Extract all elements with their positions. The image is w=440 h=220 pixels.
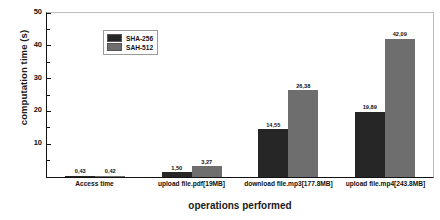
bar-sah512-2[interactable]: 26,38 xyxy=(288,90,318,177)
bar-value-label: 26,38 xyxy=(296,83,310,89)
bar-group-upload-mp4: 19,89 42,09 xyxy=(337,13,434,177)
bar-sha256-2[interactable]: 14,55 xyxy=(258,129,288,177)
legend: SHA-256 SAH-512 xyxy=(103,30,158,55)
bar-value-label: 1,50 xyxy=(171,165,182,171)
bar-sha256-1[interactable]: 1,50 xyxy=(162,172,192,177)
y-tick-label: 40 xyxy=(34,40,42,49)
x-tick-label-2: download file.mp3[177.8MB] xyxy=(240,180,337,187)
y-tick-label: 30 xyxy=(34,73,42,82)
legend-swatch-icon xyxy=(107,34,122,42)
y-tick-label: 10 xyxy=(34,138,42,147)
x-axis-title: operations performed xyxy=(46,200,434,211)
bar-chart: computation time (s) 50 40 30 20 xyxy=(0,0,440,220)
legend-label: SAH-512 xyxy=(126,44,153,51)
bar-value-label: 19,89 xyxy=(363,104,377,110)
legend-label: SHA-256 xyxy=(126,35,153,42)
bar-value-label: 3,27 xyxy=(201,159,212,165)
bar-sha256-0[interactable]: 0,43 xyxy=(65,176,95,177)
bar-sah512-3[interactable]: 42,09 xyxy=(385,39,415,177)
x-tick-label-0: Access time xyxy=(46,180,143,187)
bar-value-label: 42,09 xyxy=(393,31,407,37)
x-tick-label-3: upload file.mp4[243.8MB] xyxy=(337,180,434,187)
x-tick-label-1: upload file.pdf[19MB] xyxy=(143,180,240,187)
bar-sah512-0[interactable]: 0,42 xyxy=(95,176,125,177)
legend-item-sah512[interactable]: SAH-512 xyxy=(107,43,153,51)
bar-value-label: 14,55 xyxy=(266,122,280,128)
bar-value-label: 0,43 xyxy=(75,168,86,174)
plot-area: 50 40 30 20 10 xyxy=(46,12,434,178)
y-tick-label: 20 xyxy=(34,105,42,114)
legend-item-sha256[interactable]: SHA-256 xyxy=(107,34,153,42)
bar-sah512-1[interactable]: 3,27 xyxy=(192,166,222,177)
bar-sha256-3[interactable]: 19,89 xyxy=(355,112,385,177)
bar-value-label: 0,42 xyxy=(105,168,116,174)
y-axis-title: computation time (s) xyxy=(18,3,29,153)
bar-group-download-mp3: 14,55 26,38 xyxy=(240,13,337,177)
legend-swatch-icon xyxy=(107,43,122,51)
x-axis-tick-labels: Access time upload file.pdf[19MB] downlo… xyxy=(46,180,434,187)
y-tick-label: 50 xyxy=(34,7,42,16)
